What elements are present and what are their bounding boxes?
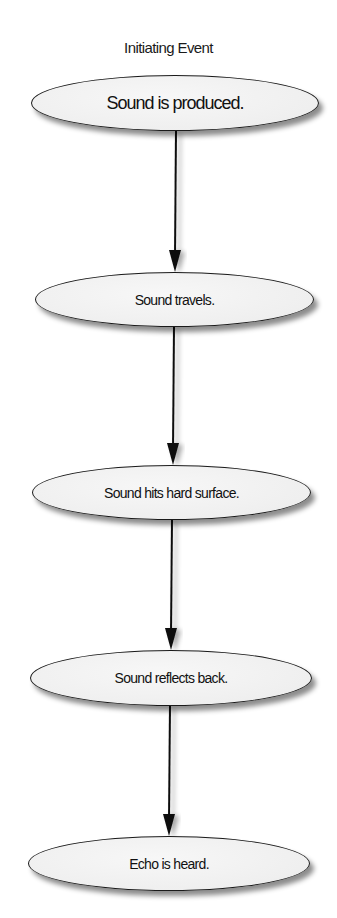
diagram-title: Initiating Event: [0, 39, 337, 56]
node-label: Sound hits hard surface.: [104, 485, 239, 501]
edge-arrow-1: [169, 131, 181, 272]
arrowhead-icon: [165, 628, 177, 650]
node-label: Sound reflects back.: [115, 670, 228, 686]
node-sound-reflects-back: Sound reflects back.: [30, 650, 312, 706]
node-sound-hits-hard-surface: Sound hits hard surface.: [32, 465, 311, 520]
node-echo-is-heard: Echo is heard.: [28, 836, 310, 891]
node-sound-produced: Sound is produced.: [31, 75, 319, 131]
node-label: Sound is produced.: [106, 93, 243, 114]
node-sound-travels: Sound travels.: [35, 272, 314, 327]
arrowhead-icon: [163, 814, 175, 836]
connectors: [0, 0, 337, 918]
edge-arrow-2: [167, 327, 179, 465]
arrowhead-icon: [167, 443, 179, 465]
node-label: Sound travels.: [135, 292, 215, 308]
arrowhead-icon: [169, 250, 181, 272]
edge-arrow-3: [165, 520, 177, 650]
node-label: Echo is heard.: [129, 856, 209, 872]
edge-arrow-4: [163, 706, 175, 836]
